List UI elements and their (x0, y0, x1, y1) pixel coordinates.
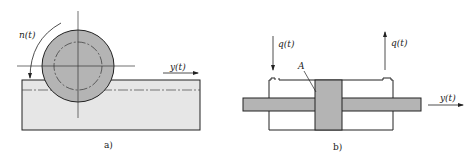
caption-a: a) (104, 140, 113, 150)
displacement-label-a: y(t) (169, 62, 186, 72)
area-leader-line (304, 71, 316, 92)
figure-a-roller-on-base: n(t) y(t) a) (17, 11, 200, 150)
displacement-label-b: y(t) (439, 93, 456, 103)
piston (315, 80, 342, 130)
rotation-label: n(t) (19, 30, 36, 40)
caption-b: b) (333, 142, 342, 152)
area-label: A (297, 61, 305, 71)
figure-b-hydraulic-cylinder: q(t) q(t) A y(t) b) (243, 32, 463, 152)
diagram-canvas: n(t) y(t) a) q(t) q(t) A y(t) b) (0, 0, 475, 158)
outflow-label: q(t) (391, 38, 408, 48)
inflow-label: q(t) (278, 39, 295, 49)
